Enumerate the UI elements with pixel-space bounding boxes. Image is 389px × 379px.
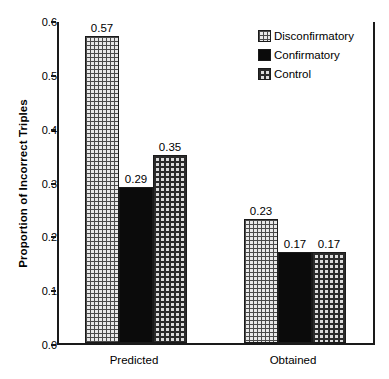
x-label-predicted: Predicted	[84, 352, 184, 368]
legend-item-confirmatory[interactable]: Confirmatory	[258, 47, 386, 63]
y-tick-0.3: 0.3	[5, 178, 57, 190]
y-tick-0.5: 0.5	[5, 70, 57, 82]
bar-value-obtained-disconfirmatory: 0.23	[236, 204, 286, 218]
x-label-obtained: Obtained	[243, 352, 343, 368]
legend-item-control[interactable]: Control	[258, 66, 386, 82]
x-axis-labels: Predicted Obtained	[57, 352, 375, 368]
y-tick-mark-0.0	[51, 344, 56, 346]
bar-obtained-control[interactable]	[312, 252, 346, 344]
y-tick-mark-0.4	[51, 129, 56, 131]
y-tick-mark-0.1	[51, 290, 56, 292]
bar-chart-figure: Proportion of Incorrect Triples 0.6 0.5 …	[0, 0, 389, 379]
legend-swatch-control-icon	[258, 68, 271, 80]
y-tick-0.6: 0.6	[5, 16, 57, 28]
bar-predicted-confirmatory[interactable]	[119, 187, 153, 343]
y-tick-0.4: 0.4	[5, 124, 57, 136]
y-axis-ticks: 0.6 0.5 0.4 0.3 0.2 0.1 0.0	[0, 0, 57, 379]
legend-label-disconfirmatory: Disconfirmatory	[274, 28, 354, 44]
y-tick-0.0: 0.0	[5, 339, 57, 351]
legend: Disconfirmatory Confirmatory Control	[258, 28, 386, 85]
legend-swatch-disconfirmatory-icon	[258, 30, 271, 42]
y-tick-mark-0.5	[51, 75, 56, 77]
legend-item-disconfirmatory[interactable]: Disconfirmatory	[258, 28, 386, 44]
legend-label-confirmatory: Confirmatory	[274, 47, 340, 63]
y-tick-0.1: 0.1	[5, 285, 57, 297]
y-tick-mark-0.3	[51, 183, 56, 185]
legend-swatch-confirmatory-icon	[258, 49, 271, 61]
y-tick-mark-0.2	[51, 236, 56, 238]
bar-predicted-disconfirmatory[interactable]	[85, 36, 119, 343]
bar-value-obtained-control: 0.17	[304, 237, 354, 251]
bar-obtained-confirmatory[interactable]	[278, 252, 312, 344]
bar-value-predicted-control: 0.35	[145, 140, 195, 154]
bar-value-predicted-disconfirmatory: 0.57	[77, 21, 127, 35]
legend-label-control: Control	[274, 66, 311, 82]
bar-predicted-control[interactable]	[153, 155, 187, 343]
y-tick-mark-0.6	[51, 21, 56, 23]
y-tick-0.2: 0.2	[5, 231, 57, 243]
